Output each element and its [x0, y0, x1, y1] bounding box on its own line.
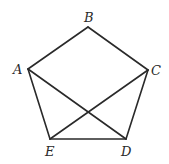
label-d: D — [120, 144, 132, 159]
edge-ea — [28, 69, 50, 139]
label-a: A — [12, 62, 22, 77]
edge-ce — [50, 70, 148, 139]
edge-cd — [126, 70, 148, 139]
pentagon-diagram: A B C D E — [0, 0, 169, 164]
edge-bc — [88, 27, 148, 70]
label-b: B — [83, 10, 94, 25]
edge-ab — [28, 27, 88, 69]
label-e: E — [44, 144, 55, 159]
edges — [28, 27, 148, 139]
edge-ad — [28, 69, 126, 139]
label-c: C — [151, 63, 161, 78]
